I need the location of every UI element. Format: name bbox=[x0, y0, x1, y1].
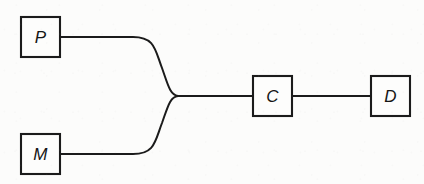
node-c-label: C bbox=[266, 87, 279, 106]
node-c[interactable]: C bbox=[253, 76, 292, 116]
node-d[interactable]: D bbox=[371, 76, 410, 116]
edge-p-to-junction bbox=[60, 37, 178, 96]
edge-group bbox=[60, 37, 371, 154]
node-d-label: D bbox=[384, 87, 396, 106]
node-m[interactable]: M bbox=[21, 134, 60, 174]
diagram-canvas: P M C D bbox=[0, 0, 424, 184]
block-diagram-figure: P M C D bbox=[0, 0, 424, 184]
node-p[interactable]: P bbox=[21, 17, 60, 57]
node-m-label: M bbox=[33, 145, 48, 164]
edge-m-to-junction bbox=[60, 96, 178, 154]
node-p-label: P bbox=[35, 28, 47, 47]
